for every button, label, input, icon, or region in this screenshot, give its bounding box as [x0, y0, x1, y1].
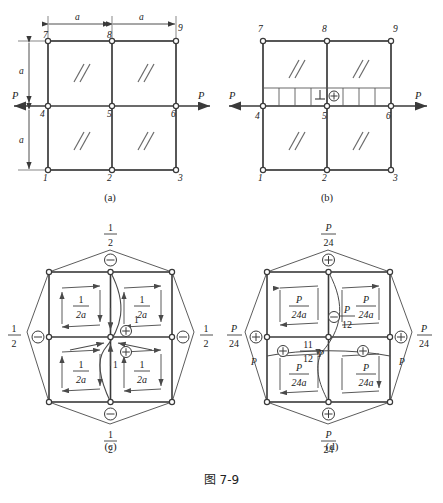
panel-a-node-3: 3 — [177, 173, 183, 183]
panel-d-cell-tr: P 24a — [356, 294, 376, 320]
panel-b-node-7: 7 — [258, 24, 264, 34]
panel-b-node-4: 4 — [255, 111, 260, 121]
panel-a-node-4: 4 — [40, 109, 45, 119]
panel-c-minus-right — [177, 331, 189, 343]
panel-d-cell-tl: P 24a — [289, 294, 309, 320]
panel-c: 1 2a 1 2a 1 2a 1 2a 1 — [0, 210, 221, 460]
panel-d-plus-bottom — [323, 408, 335, 420]
panel-d-plus-top — [323, 254, 335, 266]
panel-c-cell-bl-den: 2a — [76, 374, 86, 385]
panel-b-node-9: 9 — [393, 24, 398, 34]
panel-a-node-2: 2 — [107, 173, 112, 183]
panel-d-side-label-left: P — [250, 357, 257, 367]
panel-b-load-right: P — [414, 90, 422, 101]
panel-a-node-8: 8 — [107, 30, 112, 40]
panel-c-cell-br: 1 2a — [134, 359, 150, 385]
panel-c-drawing: 1 2a 1 2a 1 2a 1 2a 1 — [0, 210, 221, 460]
panel-d-edge-bottom-num: P — [324, 429, 331, 440]
panel-c-edge-right-den: 2 — [204, 338, 209, 349]
panel-d-plus-right — [395, 331, 407, 343]
panel-b: 1 2 3 4 5 6 7 8 9 P P (b) — [221, 0, 443, 210]
panel-d-cell-br: P 24a — [356, 362, 376, 388]
panel-d-cell-bl-num: P — [295, 362, 302, 373]
panel-c-caption-text: (c) — [0, 440, 221, 452]
panel-c-center-lower-label: 1 — [113, 360, 118, 370]
panel-c-cell-bl: 1 2a — [73, 359, 89, 385]
panel-a-node-6: 6 — [171, 109, 176, 119]
panel-d-side-label-right: P — [398, 357, 405, 367]
panel-b-load-left: P — [228, 90, 236, 101]
panel-d-cell-bl-den: 24a — [292, 377, 307, 388]
panel-c-cell-bl-num: 1 — [79, 359, 84, 370]
panel-a-dim-left-upper: a — [19, 66, 24, 76]
panel-d-cell-br-den: 24a — [359, 377, 374, 388]
panel-a-dim-left-lower: a — [19, 135, 24, 145]
panel-a: 1 2 3 4 5 6 7 8 9 a a a a P P (a) — [0, 0, 221, 210]
panel-a-node-5: 5 — [107, 109, 112, 119]
panel-c-cell-br-num: 1 — [140, 359, 145, 370]
panel-a-load-right: P — [197, 90, 205, 101]
panel-d-plus-mid-right — [358, 346, 369, 357]
panel-d-center-num: 11 — [303, 339, 313, 350]
panel-c-cell-tr-num: 1 — [140, 294, 145, 305]
panel-a-dim-top-left: a — [75, 12, 80, 22]
panel-d-edge-right-den: 24 — [419, 338, 429, 349]
panel-d-caption-text: (d) — [221, 440, 443, 452]
panel-d-cell-tl-den: 24a — [292, 309, 307, 320]
panel-d-cell-tr-num: P — [362, 294, 369, 305]
panel-c-edge-right-num: 1 — [204, 323, 209, 334]
panel-d-cell-bl: P 24a — [289, 362, 309, 388]
panel-d-edge-right-num: P — [420, 323, 427, 334]
panel-d-center-suffix: P — [317, 348, 324, 359]
panel-d: P 24a P 24a P 24a P 24a P — [221, 210, 443, 460]
panel-d-cell-tl-num: P — [295, 294, 302, 305]
panel-c-minus-top — [105, 254, 117, 266]
panel-d-center-den: 12 — [303, 353, 313, 364]
panel-d-diag-num: P — [343, 304, 350, 315]
panel-c-minus-left — [32, 331, 44, 343]
panel-c-plus-lower — [121, 347, 132, 358]
panel-d-cell-br-num: P — [362, 362, 369, 373]
panel-c-edge-top-num: 1 — [108, 222, 113, 233]
panel-d-edge-left: P 24 — [227, 323, 242, 349]
panel-c-cell-tl: 1 2a — [73, 294, 89, 320]
panel-c-edge-top: 1 2 — [104, 222, 117, 248]
panel-c-edge-left: 1 2 — [8, 323, 21, 349]
figure-caption: 图 7-9 — [0, 470, 443, 487]
panel-d-cell-tr-den: 24a — [359, 309, 374, 320]
panel-a-node-1: 1 — [43, 173, 48, 183]
panel-b-node-8: 8 — [322, 24, 327, 34]
panel-c-edge-left-num: 1 — [12, 323, 17, 334]
panel-c-edge-right: 1 2 — [200, 323, 213, 349]
panel-d-edge-left-den: 24 — [229, 338, 239, 349]
panel-c-edge-top-den: 2 — [108, 237, 113, 248]
panel-c-edge-left-den: 2 — [12, 338, 17, 349]
panel-d-edge-left-num: P — [230, 323, 237, 334]
panel-b-plus-marker — [329, 91, 339, 101]
panel-b-node-6: 6 — [386, 111, 391, 121]
panel-b-node-1: 1 — [258, 173, 263, 183]
panel-b-caption: (b) — [321, 192, 334, 204]
panel-c-center-upper-label: 1 — [134, 315, 139, 325]
panel-b-drawing: 1 2 3 4 5 6 7 8 9 P P (b) — [221, 0, 443, 210]
panel-a-drawing: 1 2 3 4 5 6 7 8 9 a a a a P P (a) — [0, 0, 221, 210]
panel-d-edge-right: P 24 — [417, 323, 432, 349]
panel-c-cell-tl-den: 2a — [76, 309, 86, 320]
panel-d-plus-left — [250, 331, 262, 343]
panel-d-plus-mid-left — [278, 346, 289, 357]
panel-a-dim-top-right: a — [139, 12, 144, 22]
panel-c-minus-bottom — [105, 408, 117, 420]
panel-d-edge-top: P 24 — [321, 222, 336, 248]
panel-b-node-2: 2 — [322, 173, 327, 183]
panel-d-diag-fraction: P 12 — [339, 304, 355, 330]
figure-7-9: 1 2 3 4 5 6 7 8 9 a a a a P P (a) — [0, 0, 443, 503]
panel-d-diag-den: 12 — [342, 319, 352, 330]
panel-d-edge-top-num: P — [324, 222, 331, 233]
panel-c-cell-tl-num: 1 — [79, 294, 84, 305]
panel-a-caption: (a) — [104, 192, 116, 204]
panel-c-edge-bottom-num: 1 — [108, 429, 113, 440]
panel-b-node-3: 3 — [392, 173, 398, 183]
panel-c-cell-br-den: 2a — [137, 374, 147, 385]
panel-d-edge-top-den: 24 — [324, 237, 334, 248]
panel-c-plus-upper — [121, 326, 132, 337]
